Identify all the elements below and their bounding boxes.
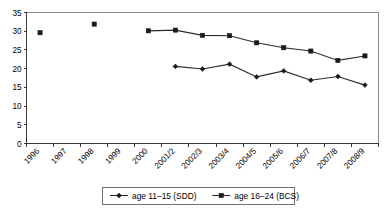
x-tick-label: 2000 bbox=[131, 146, 151, 166]
y-tick-label: 35 bbox=[12, 9, 22, 18]
square-marker-icon bbox=[282, 46, 286, 50]
diamond-marker-icon bbox=[173, 64, 178, 69]
series-1 bbox=[173, 62, 367, 88]
square-marker-icon bbox=[227, 34, 231, 38]
x-tick-label: 2004/5 bbox=[234, 146, 258, 170]
x-tick-label: 2003/4 bbox=[207, 146, 231, 170]
square-marker-icon bbox=[38, 31, 42, 35]
legend: age 11–15 (SDD)age 16–24 (BCS) bbox=[102, 187, 299, 204]
x-axis: 199619971998199920002001/22002/32003/420… bbox=[22, 144, 378, 171]
chart-container: 05101520253035199619971998199920002001/2… bbox=[0, 0, 392, 214]
legend-label: age 16–24 (BCS) bbox=[234, 191, 299, 201]
series-line bbox=[175, 64, 365, 85]
x-tick-label: 2006/7 bbox=[288, 146, 312, 170]
diamond-marker-icon bbox=[254, 74, 259, 79]
square-marker-icon bbox=[336, 58, 340, 62]
diamond-marker-icon bbox=[363, 83, 368, 88]
y-tick-label: 30 bbox=[12, 27, 22, 36]
square-marker-icon bbox=[363, 54, 367, 58]
square-marker-icon bbox=[173, 28, 177, 32]
diamond-marker-icon bbox=[227, 62, 232, 67]
y-tick-label: 20 bbox=[12, 65, 22, 74]
square-marker-icon bbox=[146, 29, 150, 33]
square-marker-icon bbox=[92, 22, 96, 26]
square-marker-icon bbox=[200, 33, 204, 37]
square-marker-icon bbox=[219, 193, 223, 197]
y-tick-label: 15 bbox=[12, 83, 22, 92]
square-marker-icon bbox=[309, 49, 313, 53]
x-tick-label: 1999 bbox=[103, 146, 123, 166]
diamond-marker-icon bbox=[200, 67, 205, 72]
y-tick-label: 5 bbox=[17, 121, 22, 130]
x-tick-label: 2008/9 bbox=[342, 146, 366, 170]
y-tick-label: 0 bbox=[17, 140, 22, 149]
x-tick-label: 1996 bbox=[22, 146, 42, 166]
diamond-marker-icon bbox=[308, 78, 313, 83]
diamond-marker-icon bbox=[335, 74, 340, 79]
x-tick-label: 2007/8 bbox=[315, 146, 339, 170]
line-chart: 05101520253035199619971998199920002001/2… bbox=[0, 0, 392, 214]
y-tick-label: 10 bbox=[12, 102, 22, 111]
diamond-marker-icon bbox=[281, 68, 286, 73]
x-tick-label: 2002/3 bbox=[180, 146, 204, 170]
series-line bbox=[148, 30, 365, 60]
y-tick-label: 25 bbox=[12, 46, 22, 55]
square-marker-icon bbox=[255, 41, 259, 45]
x-tick-label: 1998 bbox=[76, 146, 96, 166]
legend-label: age 11–15 (SDD) bbox=[132, 191, 197, 201]
x-tick-label: 1997 bbox=[49, 146, 69, 166]
x-tick-label: 2005/6 bbox=[261, 146, 285, 170]
x-tick-label: 2001/2 bbox=[153, 146, 177, 170]
series-2 bbox=[38, 22, 367, 63]
y-axis: 05101520253035 bbox=[12, 9, 26, 149]
